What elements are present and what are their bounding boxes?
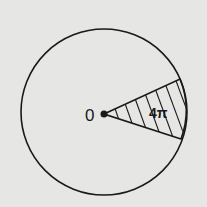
sector-outline [104,79,186,139]
sector-label: 4π [149,105,168,121]
center-label: 0 [85,106,94,125]
circle-sector-diagram: 0 4π [0,0,207,207]
center-point [101,111,108,118]
